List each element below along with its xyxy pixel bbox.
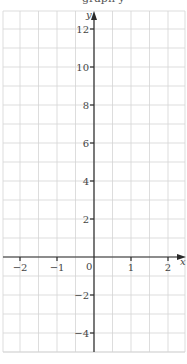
origin-label: 0 [86, 261, 92, 272]
coordinate-grid-chart: xy−2−1012−4−224681012 [0, 0, 187, 364]
y-tick-label: −4 [74, 328, 89, 339]
x-axis-label: x [180, 256, 186, 267]
y-axis-label: y [85, 9, 92, 20]
x-tick-label: 1 [128, 262, 134, 273]
x-tick-label: 2 [165, 262, 171, 273]
y-tick-label: −2 [74, 290, 89, 301]
y-axis-arrow-icon [91, 11, 97, 20]
y-tick-label: 12 [76, 24, 89, 35]
y-tick-label: 2 [83, 214, 89, 225]
y-tick-label: 10 [76, 62, 89, 73]
y-tick-label: 6 [83, 138, 89, 149]
x-tick-label: −1 [50, 262, 65, 273]
y-tick-label: 8 [83, 100, 89, 111]
x-tick-label: −2 [13, 262, 28, 273]
y-tick-label: 4 [83, 176, 89, 187]
